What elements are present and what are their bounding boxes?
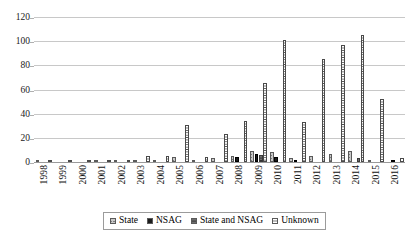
x-label-cell-2011: 2011 — [288, 165, 308, 203]
bar-unknown-1999 — [68, 160, 72, 162]
plot-area — [34, 18, 405, 163]
x-label-cell-2007: 2007 — [210, 165, 230, 203]
bar-group-2003 — [132, 18, 152, 162]
bar-group-2011 — [288, 18, 308, 162]
bar-group-2008 — [229, 18, 249, 162]
bar-state-2003 — [133, 160, 137, 162]
bar-nsag-2009 — [255, 154, 259, 162]
bar-state-2005 — [172, 157, 176, 162]
bar-state-2006 — [192, 160, 196, 162]
y-tick-0 — [30, 163, 34, 164]
x-label-cell-2004: 2004 — [151, 165, 171, 203]
bar-unknown-2008 — [244, 121, 248, 162]
bar-state-2009 — [250, 151, 254, 162]
legend-item-state[interactable]: State — [110, 215, 138, 226]
x-tick-label-2009: 2009 — [254, 165, 264, 184]
bar-unknown-2003 — [146, 156, 150, 162]
x-tick-label-2016: 2016 — [390, 165, 400, 184]
x-label-cell-2016: 2016 — [386, 165, 406, 203]
bar-group-2005 — [171, 18, 191, 162]
x-label-cell-2005: 2005 — [171, 165, 191, 203]
x-tick-label-2001: 2001 — [97, 165, 107, 184]
x-tick-label-2014: 2014 — [351, 165, 361, 184]
bar-unknown-2000 — [87, 160, 91, 162]
bar-state-2008 — [231, 156, 235, 162]
legend-swatch-state_and_nsag-icon — [191, 218, 197, 224]
x-label-cell-2009: 2009 — [249, 165, 269, 203]
legend-label-state: State — [119, 215, 138, 226]
x-label-cell-1999: 1999 — [54, 165, 74, 203]
x-tick-label-2010: 2010 — [273, 165, 283, 184]
bar-state-2004 — [153, 160, 157, 162]
bar-unknown-2006 — [205, 157, 209, 162]
bar-group-2000 — [73, 18, 93, 162]
bar-group-2002 — [112, 18, 132, 162]
bar-groups — [34, 18, 405, 162]
bar-chart: 020406080100120 199819992000200120022003… — [0, 0, 412, 241]
y-tick-label-20: 20 — [21, 134, 31, 144]
x-tick-label-1998: 1998 — [39, 165, 49, 184]
bar-unknown-2012 — [322, 59, 326, 162]
bar-unknown-2005 — [185, 125, 189, 162]
bar-nsag-2010 — [274, 157, 278, 162]
x-tick-label-2005: 2005 — [175, 165, 185, 184]
legend-label-state_and_nsag: State and NSAG — [200, 215, 263, 226]
bar-state-2011 — [289, 158, 293, 162]
legend-item-state_and_nsag[interactable]: State and NSAG — [191, 215, 263, 226]
legend-swatch-state-icon — [110, 218, 116, 224]
bar-group-2016 — [386, 18, 406, 162]
legend-swatch-unknown-icon — [272, 218, 278, 224]
x-label-cell-2014: 2014 — [347, 165, 367, 203]
x-label-cell-2008: 2008 — [229, 165, 249, 203]
bar-state-2010 — [270, 152, 274, 162]
legend-item-nsag[interactable]: NSAG — [147, 215, 182, 226]
bar-group-2007 — [210, 18, 230, 162]
bar-unknown-2007 — [224, 134, 228, 162]
x-label-cell-2001: 2001 — [93, 165, 113, 203]
x-label-cell-1998: 1998 — [34, 165, 54, 203]
x-axis-line — [34, 162, 405, 163]
legend-swatch-nsag-icon — [147, 218, 153, 224]
y-tick-label-80: 80 — [21, 62, 31, 72]
x-tick-label-1999: 1999 — [58, 165, 68, 184]
bar-state_and_nsag-2014 — [357, 158, 361, 162]
y-tick-label-120: 120 — [16, 13, 30, 23]
bar-group-2013 — [327, 18, 347, 162]
bar-unknown-2013 — [341, 45, 345, 162]
x-label-cell-2000: 2000 — [73, 165, 93, 203]
bar-unknown-1998 — [48, 160, 52, 162]
bar-group-2012 — [307, 18, 327, 162]
bar-unknown-2011 — [302, 122, 306, 162]
x-label-cell-2015: 2015 — [366, 165, 386, 203]
bar-nsag-2011 — [294, 160, 298, 162]
bar-unknown-2010 — [283, 40, 287, 162]
x-label-cell-2012: 2012 — [307, 165, 327, 203]
bar-group-2014 — [347, 18, 367, 162]
y-tick-label-60: 60 — [21, 86, 31, 96]
bar-nsag-2016 — [391, 160, 395, 162]
bar-unknown-2001 — [107, 160, 111, 162]
bar-state-2002 — [114, 160, 118, 162]
x-label-cell-2002: 2002 — [112, 165, 132, 203]
legend-item-unknown[interactable]: Unknown — [272, 215, 318, 226]
bar-group-2009 — [249, 18, 269, 162]
bar-state_and_nsag-2009 — [259, 155, 263, 162]
x-tick-label-2012: 2012 — [312, 165, 322, 184]
bar-unknown-2009 — [263, 83, 267, 162]
x-label-cell-2003: 2003 — [132, 165, 152, 203]
x-tick-label-2002: 2002 — [117, 165, 127, 184]
bar-group-2015 — [366, 18, 386, 162]
x-tick-label-2011: 2011 — [293, 165, 303, 184]
y-axis: 020406080100120 — [0, 0, 34, 163]
x-label-cell-2006: 2006 — [190, 165, 210, 203]
bar-state-1998 — [36, 160, 40, 162]
bar-state-2014 — [348, 151, 352, 162]
bar-group-1998 — [34, 18, 54, 162]
bar-state-2007 — [211, 158, 215, 162]
x-tick-label-2003: 2003 — [136, 165, 146, 184]
x-axis-labels: 1998199920002001200220032004200520062007… — [34, 165, 405, 203]
legend-label-unknown: Unknown — [281, 215, 318, 226]
bar-unknown-2016 — [400, 158, 404, 162]
bar-unknown-2015 — [380, 99, 384, 162]
bar-state-2012 — [309, 156, 313, 162]
